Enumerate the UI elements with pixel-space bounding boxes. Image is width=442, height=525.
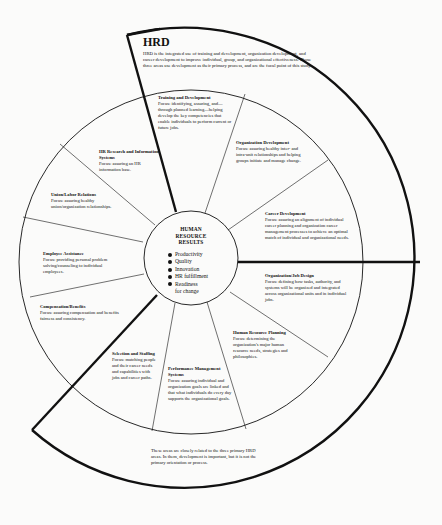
bullet-icon — [168, 260, 172, 264]
segment-selection-staffing: Selection and Staffing Focus: matching p… — [112, 351, 158, 381]
segment-organization-job-design: Organization/Job Design Focus: defining … — [265, 273, 350, 303]
segment-hr-research-information-systems: HR Research and Information Systems Focu… — [99, 149, 159, 173]
bullet-icon — [168, 282, 172, 286]
segment-career-development: Career Development Focus: assuring an al… — [265, 211, 353, 241]
result-item: Innovation — [168, 266, 208, 273]
bullet-icon — [168, 275, 172, 279]
segment-employee-assistance: Employee Assistance Focus: providing per… — [43, 251, 123, 275]
segment-organization-development: Organization Development Focus: assuring… — [236, 140, 308, 164]
results-list: Productivity Quality Innovation HR fulfi… — [168, 251, 208, 295]
segment-training-development: Training and Development Focus: identify… — [158, 95, 233, 130]
result-item: Readinessfor change — [168, 281, 208, 296]
hrd-description: HRD is the integrated use of training an… — [143, 51, 313, 68]
segment-compensation-benefits: Compensation/Benefits Focus: assuring co… — [40, 304, 132, 322]
bullet-icon — [168, 253, 172, 257]
result-item: Productivity — [168, 251, 208, 258]
hrd-title: HRD — [143, 36, 170, 49]
center-title-line: HUMAN — [166, 226, 216, 233]
result-item: HR fulfillment — [168, 273, 208, 280]
center-title-line: RESULTS — [166, 239, 216, 246]
segment-performance-management-systems: Performance Management Systems Focus: as… — [168, 366, 234, 401]
result-item: Quality — [168, 258, 208, 265]
related-areas-note: These areas are closely related to the t… — [151, 448, 261, 466]
center-title: HUMAN RESOURCE RESULTS — [166, 226, 216, 246]
center-title-line: RESOURCE — [166, 233, 216, 240]
bullet-icon — [168, 268, 172, 272]
segment-human-resource-planning: Human Resource Planning Focus: determini… — [233, 330, 295, 360]
segment-union-labor-relations: Union/Labor Relations Focus: assuring he… — [51, 192, 117, 210]
